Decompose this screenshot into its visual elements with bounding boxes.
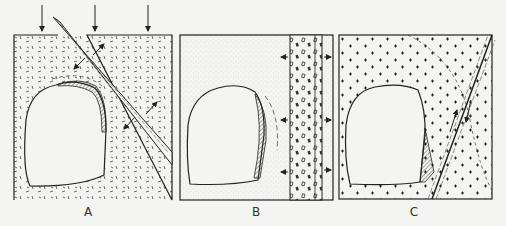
panel-label-c: C <box>410 205 418 219</box>
opening <box>187 86 264 185</box>
opening <box>25 82 106 186</box>
panel-label-a: A <box>84 205 93 219</box>
opening <box>346 85 426 185</box>
panel-b: B <box>180 35 333 219</box>
panel-a: A <box>14 5 172 219</box>
panel-c: C <box>339 35 495 219</box>
coarse-band <box>290 35 322 200</box>
panel-label-b: B <box>252 205 260 219</box>
diagram-figure: A B C <box>0 0 506 226</box>
